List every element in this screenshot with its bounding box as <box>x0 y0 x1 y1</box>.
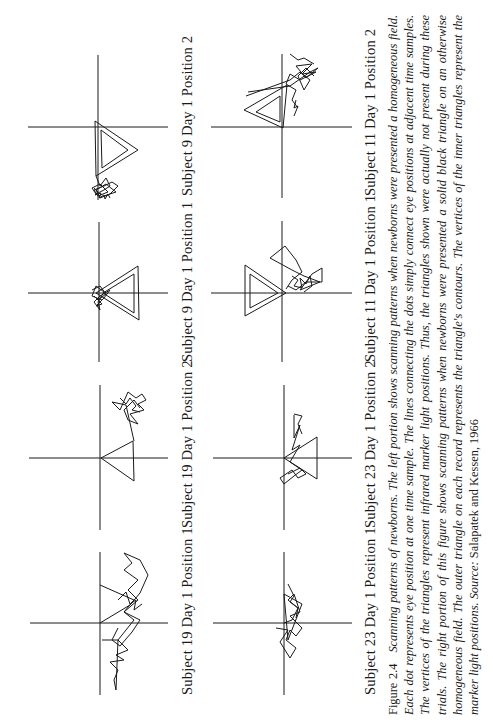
panel-s9-p2-plot <box>28 55 168 200</box>
caption-text: Scanning patterns of newborns. The left … <box>386 15 481 715</box>
caption-source-label: Source: <box>467 561 481 599</box>
panel-s9-p1-plot <box>28 222 168 362</box>
caption-source: Salapatek and Kessen, 1966 <box>467 419 481 558</box>
figure-number: Figure 2.4 <box>386 664 400 715</box>
panel-label-s11-p2: Subject 11 Day 1 Position 2 <box>362 29 379 196</box>
panel-label-s9-p1: Subject 9 Day 1 Position 1 <box>179 202 196 362</box>
panel-s19-p2-plot <box>29 385 168 530</box>
panel-label-s23-p1: Subject 23 Day 1 Position 1 <box>362 527 379 695</box>
panel-s11-p1-plot <box>211 221 352 362</box>
panel-label-s19-p2: Subject 19 Day 1 Position 2 <box>179 360 196 528</box>
panel-s23-p1-plot <box>213 552 352 695</box>
panel-s23-p2-plot <box>213 385 352 530</box>
panel-label-s19-p1: Subject 19 Day 1 Position 1 <box>179 527 196 695</box>
figure-caption: Figure 2.4 Scanning patterns of newborns… <box>385 15 482 715</box>
panel-label-s23-p2: Subject 23 Day 1 Position 2 <box>362 360 379 528</box>
book-page: Subject 9 Day 1 Position 2 Subject 9 Day… <box>0 0 493 726</box>
panel-s19-p1-plot <box>30 552 168 695</box>
panel-label-s9-p2: Subject 9 Day 1 Position 2 <box>179 36 196 196</box>
panel-label-s11-p1: Subject 11 Day 1 Position 1 <box>362 195 379 362</box>
panel-s11-p2-plot <box>211 54 352 198</box>
